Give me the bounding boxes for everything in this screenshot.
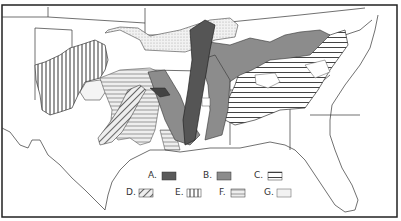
legend-label-e: E. <box>175 187 184 197</box>
legend-label-f: F. <box>219 187 226 197</box>
legend-swatch-f <box>231 189 245 197</box>
legend-swatch-a <box>162 172 176 180</box>
legend-label-d: D. <box>126 187 136 197</box>
legend-swatch-e <box>187 189 201 197</box>
legend-label-b: B. <box>203 170 212 180</box>
legend-swatch-d <box>139 189 153 197</box>
legend-label-a: A. <box>148 170 157 180</box>
map: A. B. C. D. E. F. G. <box>0 0 401 221</box>
legend-swatch-c <box>268 172 282 180</box>
region-blank-3 <box>202 98 210 106</box>
legend-label-c: C. <box>254 170 263 180</box>
legend-swatch-b <box>217 172 231 180</box>
legend-swatch-g <box>277 189 291 197</box>
legend-label-g: G. <box>264 187 274 197</box>
